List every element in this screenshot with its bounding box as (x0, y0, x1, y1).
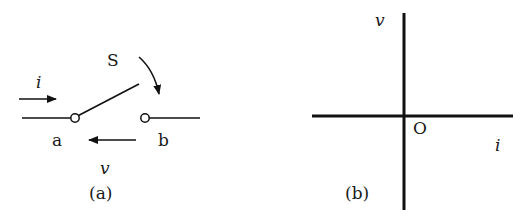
figure-a-switch-circuit: i S a b v (a) (19, 50, 200, 203)
switch-blade (79, 84, 140, 116)
y-axis-label: v (375, 10, 385, 30)
diagram-canvas: i S a b v (a) v O i (b) (0, 0, 526, 220)
figure-a-caption: (a) (89, 183, 112, 203)
voltage-label: v (100, 158, 110, 178)
switch-action-arrow-icon (139, 57, 159, 94)
figure-b-vi-axes: v O i (b) (312, 10, 513, 210)
terminal-a-label: a (52, 130, 62, 150)
switch-label: S (107, 50, 119, 70)
x-axis-label: i (495, 135, 500, 155)
current-label: i (36, 72, 41, 92)
figure-b-caption: (b) (345, 183, 369, 203)
origin-label: O (413, 118, 427, 138)
terminal-b-circle (141, 114, 149, 122)
terminal-a-circle (71, 114, 79, 122)
terminal-b-label: b (158, 130, 169, 150)
